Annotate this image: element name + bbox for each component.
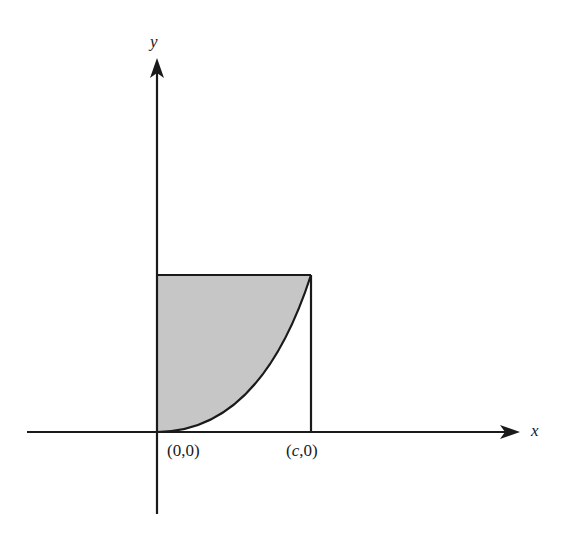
c-point-suffix: ,0) — [299, 441, 317, 460]
y-axis-label: y — [150, 33, 158, 50]
diagram-canvas — [0, 0, 565, 535]
x-axis-label: x — [531, 422, 539, 439]
shaded-region — [157, 275, 311, 432]
c-point-label: (c,0) — [286, 442, 318, 459]
origin-label: (0,0) — [167, 442, 200, 459]
